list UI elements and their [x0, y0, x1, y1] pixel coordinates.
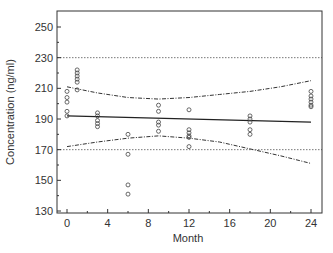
y-tick-label: 170: [35, 144, 53, 156]
y-tick-label: 190: [35, 113, 53, 125]
data-point: [187, 145, 191, 149]
data-point: [248, 128, 252, 132]
data-point: [65, 109, 69, 113]
data-point: [126, 152, 130, 156]
x-tick-label: 0: [64, 217, 70, 229]
data-point: [126, 183, 130, 187]
data-point: [126, 192, 130, 196]
y-tick-label: 210: [35, 82, 53, 94]
data-point: [65, 89, 69, 93]
x-tick-label: 20: [264, 217, 276, 229]
data-point: [309, 89, 313, 93]
data-point: [65, 100, 69, 104]
scatter-chart: 04812162024 130150170190210230250 Month …: [0, 0, 333, 253]
y-tick-label: 250: [35, 21, 53, 33]
x-axis: 04812162024: [64, 209, 317, 229]
regression-line: [67, 116, 311, 122]
y-tick-label: 130: [35, 205, 53, 217]
confidence-bands: [67, 81, 311, 164]
y-tick-label: 230: [35, 52, 53, 64]
data-point: [248, 132, 252, 136]
upper-confidence-band: [67, 81, 311, 99]
x-tick-label: 12: [183, 217, 195, 229]
data-point: [65, 96, 69, 100]
regression-line-path: [67, 116, 311, 122]
y-tick-label: 150: [35, 174, 53, 186]
x-axis-title: Month: [173, 232, 204, 244]
data-point: [157, 103, 161, 107]
data-point: [157, 129, 161, 133]
data-point: [126, 132, 130, 136]
data-point: [187, 108, 191, 112]
x-tick-label: 16: [224, 217, 236, 229]
y-axis-title: Concentration (ng/ml): [4, 59, 16, 165]
data-point: [157, 109, 161, 113]
x-tick-label: 4: [105, 217, 111, 229]
x-tick-label: 8: [145, 217, 151, 229]
x-tick-label: 24: [305, 217, 317, 229]
